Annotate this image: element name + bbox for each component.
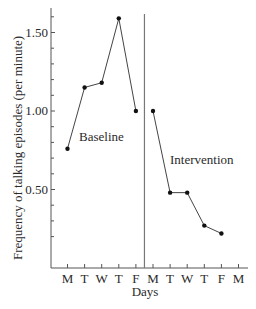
data-point (219, 231, 223, 235)
data-point (168, 190, 172, 194)
x-tick-label: T (166, 271, 174, 286)
data-point (134, 109, 138, 113)
series-line-intervention (153, 111, 221, 233)
y-axis-label: Frequency of talking episodes (per minut… (10, 36, 25, 260)
x-tick-label: T (81, 271, 89, 286)
data-point (151, 109, 155, 113)
annotation-baseline: Baseline (79, 129, 124, 144)
line-chart: 0.501.001.50MTWTFMTWTFM Baseline Interve… (0, 0, 256, 309)
data-point (82, 85, 86, 89)
x-axis-label: Days (132, 284, 159, 299)
data-point (100, 81, 104, 85)
x-tick-label: M (62, 271, 74, 286)
x-tick-label: T (115, 271, 123, 286)
data-point (185, 190, 189, 194)
y-tick-label: 0.50 (25, 182, 48, 197)
data-point (65, 146, 69, 150)
y-tick-label: 1.50 (25, 25, 48, 40)
x-tick-label: M (233, 271, 245, 286)
x-tick-label: W (96, 271, 109, 286)
x-tick-label: T (200, 271, 208, 286)
data-point (117, 16, 121, 20)
annotation-intervention: Intervention (170, 152, 234, 167)
data-point (202, 223, 206, 227)
x-tick-label: F (218, 271, 225, 286)
y-tick-label: 1.00 (25, 103, 48, 118)
x-tick-label: W (181, 271, 194, 286)
